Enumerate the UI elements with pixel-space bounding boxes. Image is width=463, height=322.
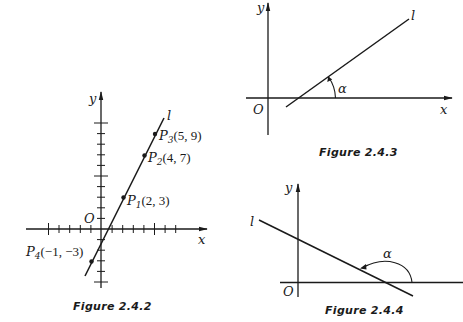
figure-2-4-4: y O l α Figure 2.4.4 <box>250 180 463 317</box>
svg-text:P4(−1, −3): P4(−1, −3) <box>25 244 83 261</box>
figure-caption: Figure 2.4.3 <box>319 146 398 159</box>
line-label: l <box>250 214 254 229</box>
figure-caption: Figure 2.4.4 <box>325 304 404 317</box>
svg-text:P1(2, 3): P1(2, 3) <box>126 193 170 210</box>
line-l <box>286 19 409 107</box>
point-label-p2: P2(4, 7) <box>147 150 191 167</box>
point-label-p3: P3(5, 9) <box>158 128 202 145</box>
point-label-p1: P1(2, 3) <box>126 193 170 210</box>
y-axis-label: y <box>284 180 293 195</box>
line-label: l <box>411 8 415 23</box>
svg-text:P2(4, 7): P2(4, 7) <box>147 150 191 167</box>
figure-2-4-3: y x O l α Figure 2.4.3 <box>246 0 452 159</box>
figure-caption: Figure 2.4.2 <box>73 300 152 313</box>
angle-label: α <box>383 246 392 261</box>
angle-arrowhead <box>360 264 367 270</box>
origin-label: O <box>253 102 264 117</box>
point-p4 <box>89 259 93 263</box>
figure-2-4-2: y x O l P3(5, 9) P2(4, 7) P1(2, 3) P4(−1… <box>25 91 207 313</box>
angle-arc <box>362 261 412 282</box>
y-axis-label: y <box>256 0 265 15</box>
point-p3 <box>153 132 157 136</box>
origin-label: O <box>283 284 294 299</box>
x-axis-label: x <box>198 232 206 247</box>
origin-label: O <box>84 211 95 226</box>
x-axis-label: x <box>440 102 448 117</box>
point-label-p4: P4(−1, −3) <box>25 244 83 261</box>
y-axis-label: y <box>88 91 97 106</box>
point-p2 <box>142 153 146 157</box>
line-label: l <box>167 108 171 123</box>
angle-label: α <box>338 81 347 96</box>
point-p1 <box>121 195 125 199</box>
svg-text:P3(5, 9): P3(5, 9) <box>158 128 202 145</box>
figure-canvas: y x O l P3(5, 9) P2(4, 7) P1(2, 3) P4(−1… <box>0 0 463 322</box>
